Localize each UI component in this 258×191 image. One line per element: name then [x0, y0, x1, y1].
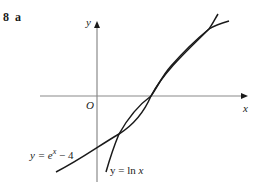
- y-axis-arrow-icon: [94, 21, 100, 28]
- origin-label: O: [86, 99, 94, 111]
- curve-exp-label-rhs: − 4: [56, 149, 73, 161]
- x-axis-label: x: [243, 102, 248, 114]
- x-axis-arrow-icon: [241, 93, 248, 99]
- graph: [0, 0, 258, 191]
- curve-ln-label: y = ln x: [110, 164, 143, 176]
- y-axis-label: y: [86, 16, 91, 28]
- curve-exp-label: y = ex − 4: [30, 147, 73, 161]
- curve-ln-label-var: x: [139, 164, 144, 176]
- curve-exp: [56, 14, 218, 172]
- curve-ln-label-lhs: y = ln: [110, 164, 139, 176]
- curve-exp-label-lhs: y = e: [30, 149, 53, 161]
